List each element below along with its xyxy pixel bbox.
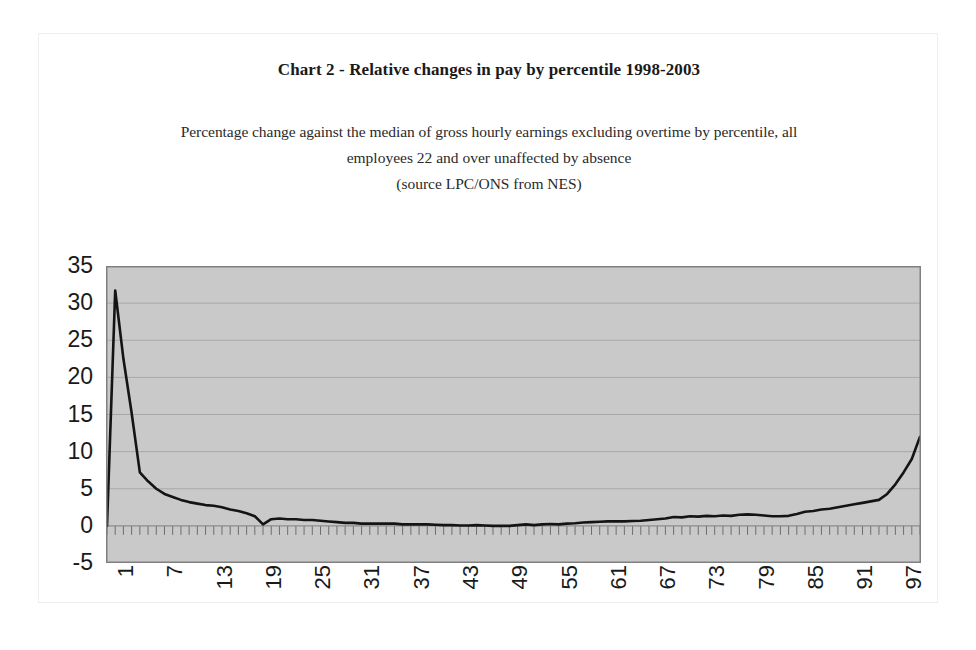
y-axis-tick-label: 10 — [67, 440, 93, 463]
chart-subtitle-line-3: (source LPC/ONS from NES) — [109, 171, 869, 197]
x-axis-tick-label: 79 — [756, 565, 778, 589]
chart-frame: Chart 2 - Relative changes in pay by per… — [38, 33, 938, 603]
y-axis-tick-label: 15 — [67, 403, 93, 426]
y-axis-tick-label: 25 — [67, 328, 93, 351]
y-axis-tick-label: 20 — [67, 365, 93, 388]
x-axis-tick-label: 13 — [214, 565, 236, 589]
x-axis-tick-label: 73 — [706, 565, 728, 589]
line-chart-svg — [106, 266, 921, 563]
plot-area — [106, 266, 921, 563]
x-axis-tick-label: 25 — [312, 565, 334, 589]
x-axis-tick-label: 91 — [854, 565, 876, 589]
x-axis-tick-label: 61 — [608, 565, 630, 589]
x-axis-tick-label: 31 — [361, 565, 383, 589]
chart-title: Chart 2 - Relative changes in pay by per… — [39, 60, 939, 80]
x-axis-tick-label: 85 — [805, 565, 827, 589]
chart-page: Chart 2 - Relative changes in pay by per… — [0, 0, 976, 650]
x-axis-tick-label: 67 — [657, 565, 679, 589]
x-axis-tick-label: 19 — [263, 565, 285, 589]
y-axis-tick-label: 30 — [67, 291, 93, 314]
y-axis: 35302520151050-5 — [39, 266, 101, 596]
y-axis-tick-label: 0 — [80, 514, 93, 537]
x-axis-tick-label: 55 — [559, 565, 581, 589]
x-axis-tick-label: 49 — [509, 565, 531, 589]
x-axis-tick-label: 97 — [903, 565, 925, 589]
y-axis-tick-label: 5 — [80, 477, 93, 500]
chart-subtitle: Percentage change against the median of … — [109, 119, 869, 197]
x-axis-tick-label: 37 — [411, 565, 433, 589]
x-axis-tick-label: 1 — [115, 565, 137, 577]
y-axis-tick-label: -5 — [73, 551, 93, 574]
chart-subtitle-line-2: employees 22 and over unaffected by abse… — [109, 145, 869, 171]
x-axis-tick-label: 7 — [164, 565, 186, 577]
chart-subtitle-line-1: Percentage change against the median of … — [109, 119, 869, 145]
x-axis: 17131925313743495561677379859197 — [106, 563, 921, 633]
x-axis-tick-label: 43 — [460, 565, 482, 589]
y-axis-tick-label: 35 — [67, 254, 93, 277]
